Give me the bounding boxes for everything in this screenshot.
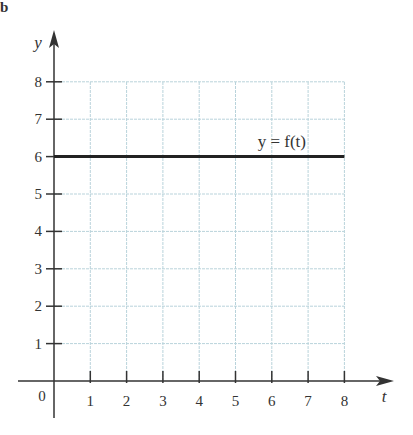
- x-tick-label: 5: [232, 393, 240, 409]
- origin-label: 0: [38, 388, 46, 404]
- y-axis-label: y: [32, 33, 42, 52]
- x-tick-label: 8: [341, 393, 349, 409]
- y-tick-label: 2: [35, 298, 43, 314]
- y-tick-label: 4: [35, 223, 43, 239]
- y-tick-label: 3: [35, 261, 43, 277]
- chart: 12345678123456780tyy = f(t)b: [0, 0, 413, 435]
- y-tick-label: 8: [35, 74, 43, 90]
- x-tick-label: 1: [87, 393, 95, 409]
- x-tick-label: 4: [195, 393, 203, 409]
- x-tick-label: 3: [159, 393, 167, 409]
- x-tick-label: 2: [123, 393, 131, 409]
- function-label: y = f(t): [258, 132, 306, 151]
- x-tick-label: 7: [304, 393, 312, 409]
- corner-mark: b: [0, 0, 8, 15]
- y-tick-label: 6: [35, 149, 43, 165]
- y-tick-label: 1: [35, 336, 43, 352]
- x-tick-label: 6: [268, 393, 276, 409]
- y-tick-label: 7: [35, 111, 43, 127]
- x-axis-label: t: [382, 387, 388, 406]
- y-tick-label: 5: [35, 186, 43, 202]
